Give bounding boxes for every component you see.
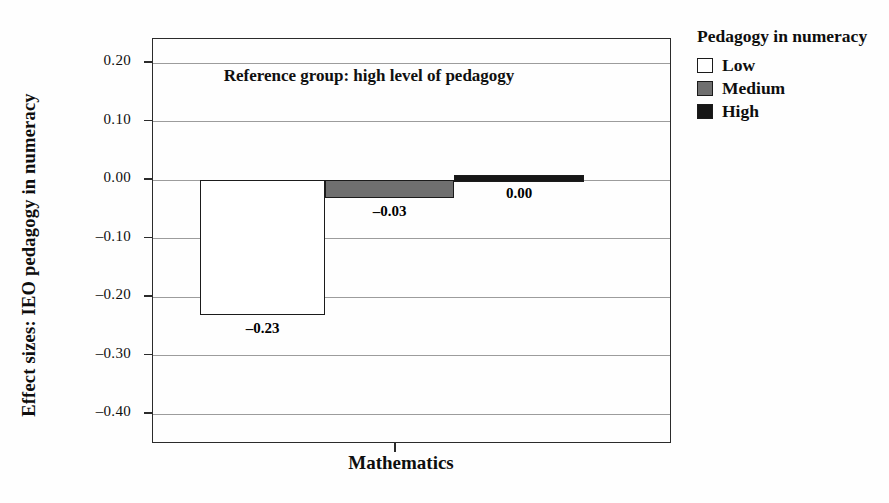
- legend-swatch: [697, 81, 713, 96]
- y-tick-label: –0.40: [61, 403, 131, 420]
- y-tick-label: 0.20: [61, 52, 131, 69]
- bar-value-label: –0.03: [373, 203, 407, 220]
- bar-high: [454, 175, 584, 182]
- legend-swatch: [697, 104, 713, 119]
- x-category-label: Mathematics: [348, 452, 454, 474]
- figure: Effect sizes: IEO pedagogy in numeracy 0…: [0, 0, 889, 503]
- y-tick-label: –0.10: [61, 228, 131, 245]
- reference-group-note: Reference group: high level of pedagogy: [224, 66, 515, 86]
- plot-area: Reference group: high level of pedagogy …: [152, 38, 671, 443]
- y-tick-label: 0.00: [61, 169, 131, 186]
- bar-value-label: –0.23: [246, 320, 280, 337]
- gridline: [153, 121, 670, 122]
- y-tick-label: –0.30: [61, 345, 131, 362]
- bar-medium: [325, 180, 454, 198]
- bar-low: [200, 180, 325, 315]
- legend-title: Pedagogy in numeracy: [697, 26, 867, 47]
- y-tick-label: –0.20: [61, 286, 131, 303]
- y-tick-label: 0.10: [61, 111, 131, 128]
- legend-item-label: High: [722, 101, 759, 122]
- bar-value-label: 0.00: [506, 185, 532, 202]
- legend-item-medium: Medium: [697, 80, 867, 97]
- legend-item-low: Low: [697, 57, 867, 74]
- x-tick-mark: [394, 443, 396, 452]
- gridline: [153, 63, 670, 64]
- legend-item-label: Low: [722, 55, 755, 76]
- legend-items: LowMediumHigh: [697, 57, 867, 120]
- legend-swatch: [697, 58, 713, 73]
- legend: Pedagogy in numeracy LowMediumHigh: [697, 26, 867, 120]
- y-axis: 0.200.100.00–0.10–0.20–0.30–0.40: [0, 38, 152, 443]
- gridline: [153, 355, 670, 356]
- legend-item-high: High: [697, 103, 867, 120]
- gridline: [153, 414, 670, 415]
- legend-item-label: Medium: [722, 78, 785, 99]
